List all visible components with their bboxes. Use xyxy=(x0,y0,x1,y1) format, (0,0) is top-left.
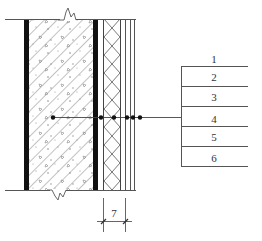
leader-dot xyxy=(112,115,116,119)
bottom-break-symbol xyxy=(48,189,66,202)
leader-dot xyxy=(131,115,135,119)
layer-label-3: 3 xyxy=(211,91,217,103)
leader-dot xyxy=(99,115,103,119)
leader-dot xyxy=(138,115,142,119)
layer-label-table: 1 2 3 4 5 6 xyxy=(181,53,248,167)
layer-label-6: 6 xyxy=(211,152,217,164)
top-break-symbol xyxy=(58,8,76,21)
membrane-layer xyxy=(93,20,98,190)
dimension-value: 7 xyxy=(111,207,117,219)
dimension-marker: 7 xyxy=(97,198,132,232)
leader-dot xyxy=(125,115,129,119)
layer-label-1: 1 xyxy=(211,53,217,65)
insulation-layer xyxy=(104,20,121,190)
layer-label-4: 4 xyxy=(211,113,217,125)
layer-label-5: 5 xyxy=(211,131,217,143)
layer-label-2: 2 xyxy=(211,71,217,83)
leader-dot xyxy=(51,115,55,119)
concrete-layer xyxy=(29,20,93,190)
wall-section-diagram: 1 2 3 4 5 6 7 xyxy=(0,0,262,241)
left-heavy-line xyxy=(24,20,29,190)
